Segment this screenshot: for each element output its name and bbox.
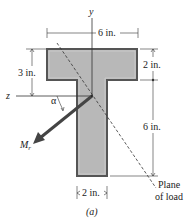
- web-height-label: 6 in.: [143, 121, 161, 132]
- alpha-label: α: [51, 95, 57, 106]
- moment-label: Mr: [19, 139, 31, 152]
- plane-of-load-label-line2: of load: [155, 191, 183, 202]
- top-to-centroid-label: 3 in.: [18, 67, 36, 78]
- plane-of-load-label-line1: Plane: [158, 179, 181, 190]
- alpha-angle-arc: [57, 96, 63, 110]
- t-section-diagram: y z 6 in. 3 in. 2 in. 6 in. 2 in. α Mr P…: [0, 0, 188, 220]
- y-axis-label: y: [88, 6, 94, 17]
- origin-point: [91, 95, 93, 97]
- z-axis-label: z: [5, 90, 10, 101]
- figure-caption: (a): [86, 206, 98, 218]
- web-width-label: 2 in.: [82, 187, 100, 198]
- flange-height-label: 2 in.: [143, 59, 161, 70]
- dimension-flange-width: [47, 28, 138, 38]
- flange-width-label: 6 in.: [98, 27, 116, 38]
